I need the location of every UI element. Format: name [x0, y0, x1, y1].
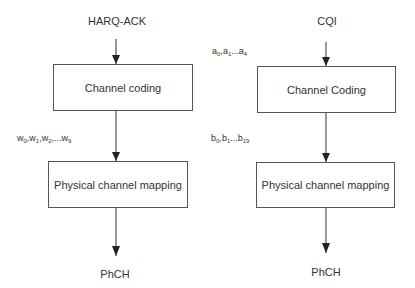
physical-channel-mapping-box-left: Physical channel mapping	[48, 161, 188, 208]
seq-subscript: 4	[244, 51, 247, 57]
channel-coding-box-right: Channel Coding	[257, 66, 396, 113]
seq-separator: ...	[231, 46, 239, 56]
physical-channel-mapping-box-right: Physical channel mapping	[256, 162, 395, 208]
channel-coding-label: Channel Coding	[287, 84, 366, 96]
seq-separator: ,...	[52, 133, 62, 143]
seq-subscript: 9	[68, 138, 71, 144]
physical-channel-mapping-label: Physical channel mapping	[54, 179, 182, 191]
seq-separator: ...	[230, 133, 238, 143]
harq-ack-cqi-coding-diagram: HARQ-ACK Channel coding w0,w1,w2,...w9 P…	[0, 0, 415, 288]
channel-coding-label: Channel coding	[85, 82, 161, 94]
channel-coding-box-left: Channel coding	[53, 64, 193, 111]
cqi-input-label: CQI	[317, 15, 337, 27]
arrowhead-icon	[112, 246, 120, 256]
arrowhead-icon	[322, 243, 330, 253]
arrowhead-icon	[322, 57, 330, 66]
connector-arrows	[0, 0, 415, 288]
a-sequence-label: a0,a1...a4	[212, 46, 247, 56]
harq-ack-input-label: HARQ-ACK	[88, 15, 146, 27]
b-sequence-label: b0,b1...b19	[211, 133, 249, 143]
arrowhead-icon	[112, 55, 120, 64]
phch-output-label-left: PhCH	[100, 268, 129, 280]
arrowhead-icon	[112, 152, 120, 161]
w-sequence-label: w0,w1,w2,...w9	[17, 133, 71, 143]
physical-channel-mapping-label: Physical channel mapping	[262, 179, 390, 191]
phch-output-label-right: PhCH	[311, 266, 340, 278]
seq-subscript: 19	[243, 138, 250, 144]
arrowhead-icon	[322, 153, 330, 162]
